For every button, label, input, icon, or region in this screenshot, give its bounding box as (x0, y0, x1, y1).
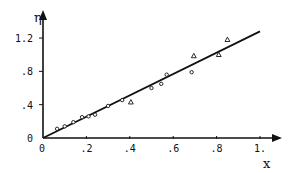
circle-marker-icon (150, 86, 153, 89)
x-tick-label: 0 (39, 143, 45, 154)
triangle-marker-icon (191, 53, 196, 57)
regression-line (43, 31, 260, 138)
fit-line (43, 31, 260, 138)
circle-marker-icon (72, 120, 75, 123)
ticks: 0.2.4.6.81.0.4.81.2 (15, 33, 266, 154)
x-tick-label: .2 (80, 143, 92, 154)
x-axis-arrow-icon (272, 134, 282, 142)
data-points (55, 37, 229, 130)
x-tick-label: .6 (167, 143, 179, 154)
circle-marker-icon (190, 70, 193, 73)
circle-marker-icon (165, 73, 168, 76)
circle-marker-icon (93, 113, 96, 116)
y-tick-label: .8 (21, 66, 33, 77)
circle-marker-icon (87, 115, 90, 118)
x-tick-label: .4 (124, 143, 136, 154)
triangle-marker-icon (225, 37, 230, 41)
circle-marker-icon (63, 125, 66, 128)
circle-marker-icon (121, 98, 124, 101)
circle-marker-icon (80, 115, 83, 118)
x-tick-label: 1. (254, 143, 266, 154)
y-tick-label: .4 (21, 100, 33, 111)
circle-marker-icon (160, 82, 163, 85)
x-tick-label: .8 (211, 143, 223, 154)
x-axis-label: x (263, 156, 271, 171)
circle-marker-icon (55, 127, 58, 130)
y-tick-label: 0 (27, 133, 33, 144)
y-axis-label: η (34, 10, 42, 25)
scatter-chart: 0.2.4.6.81.0.4.81.2 η x (0, 0, 291, 173)
circle-marker-icon (106, 104, 109, 107)
y-tick-label: 1.2 (15, 33, 33, 44)
triangle-marker-icon (128, 100, 133, 104)
